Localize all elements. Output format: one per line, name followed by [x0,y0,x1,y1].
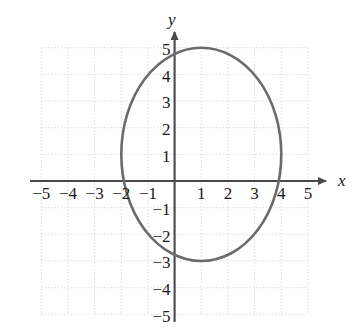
y-tick-label-1: 1 [153,148,171,165]
x-tick-label-4: 4 [271,185,291,202]
y-tick-label-5: 5 [153,41,171,58]
y-tick-label-2: 2 [153,121,171,138]
x-tick-label--5: −5 [31,185,51,202]
x-tick-label-5: 5 [298,185,318,202]
y-tick-label-3: 3 [153,94,171,111]
graph-figure: −5 −4 −3 −2 −1 1 2 3 4 5 5 4 3 2 1 −1 −2… [0,0,359,332]
y-tick-label--1: −1 [145,201,171,218]
y-tick-label--5: −5 [145,308,171,325]
y-tick-label--3: −3 [145,254,171,271]
x-axis-label: x [338,172,346,189]
y-tick-label--4: −4 [145,281,171,298]
x-tick-label--2: −2 [111,185,131,202]
y-axis-label: y [168,11,176,28]
x-tick-label--3: −3 [85,185,105,202]
y-tick-label--2: −2 [145,228,171,245]
x-tick-label-1: 1 [191,185,211,202]
x-tick-label-2: 2 [218,185,238,202]
x-tick-label-3: 3 [245,185,265,202]
x-tick-label--4: −4 [58,185,78,202]
y-tick-label-4: 4 [153,68,171,85]
cartesian-plot [0,0,359,332]
